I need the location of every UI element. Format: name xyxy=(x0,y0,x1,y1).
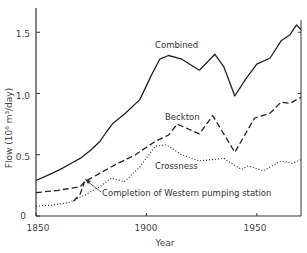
x-tick-1950: 1950 xyxy=(244,223,267,233)
x-tick-1900: 1900 xyxy=(135,223,158,233)
plot-area: 0 0.5 1.0 1.5 1850 1900 1950 Year Flow (… xyxy=(0,0,307,253)
x-axis-title: Year xyxy=(154,238,174,248)
x-tick-1850: 1850 xyxy=(27,223,50,233)
y-tick-0: 0 xyxy=(20,211,26,221)
flow-chart: 0 0.5 1.0 1.5 1850 1900 1950 Year Flow (… xyxy=(0,0,307,253)
y-tick-1.0: 1.0 xyxy=(16,91,31,101)
label-combined: Combined xyxy=(155,40,198,50)
label-crossness: Crossness xyxy=(155,161,198,171)
series-western-short-segment- xyxy=(74,182,85,202)
y-tick-0.5: 0.5 xyxy=(16,152,30,162)
y-axis-title: Flow (10⁶ m³/day) xyxy=(4,88,14,168)
label-beckton: Beckton xyxy=(165,112,200,122)
y-tick-1.5: 1.5 xyxy=(16,29,30,39)
annotation-western: Completion of Western pumping station xyxy=(102,188,271,198)
